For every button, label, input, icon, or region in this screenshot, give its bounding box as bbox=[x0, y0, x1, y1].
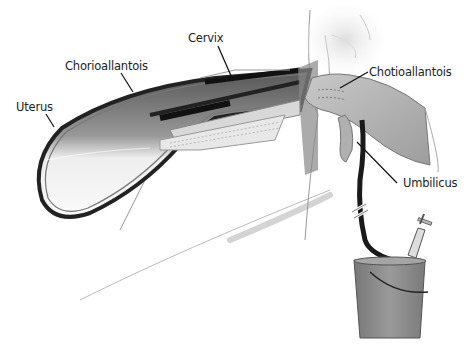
uterus-leader bbox=[46, 114, 54, 127]
uterus-shape bbox=[39, 60, 318, 217]
label-chotioallantois: Chotioallantois bbox=[369, 65, 452, 79]
label-umbilicus: Umbilicus bbox=[403, 176, 457, 190]
illustration bbox=[0, 0, 470, 351]
label-cervix: Cervix bbox=[188, 31, 223, 45]
label-uterus: Uterus bbox=[16, 100, 53, 114]
diagram-canvas: Cervix Chorioallantois Uterus Chotioalla… bbox=[0, 0, 470, 351]
chorioallantois-leader bbox=[121, 73, 133, 92]
label-chorioallantois: Chorioallantois bbox=[65, 59, 148, 73]
